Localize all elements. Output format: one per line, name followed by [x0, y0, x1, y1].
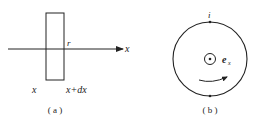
out-of-page-dot-icon	[209, 58, 212, 61]
x-axis-label: x	[124, 43, 130, 54]
field-e-subscript: x	[227, 60, 231, 66]
panel-a: x r x x+dx ( a )	[8, 13, 130, 115]
caption-b: ( b )	[203, 105, 218, 115]
panel-b: i e x ( b )	[173, 10, 247, 115]
top-point-icon	[209, 21, 212, 24]
x-position-label: x	[31, 84, 37, 95]
circulation-arrow-icon	[199, 77, 227, 81]
current-i-label: i	[208, 10, 211, 20]
field-e-label: e	[222, 54, 227, 65]
caption-a: ( a )	[48, 105, 63, 115]
x-plus-dx-label: x+dx	[65, 84, 87, 95]
bottom-point-icon	[209, 95, 212, 98]
point-r-label: r	[67, 38, 71, 48]
slab-rectangle	[46, 13, 64, 80]
figure: x r x x+dx ( a ) i e x ( b )	[0, 0, 259, 123]
